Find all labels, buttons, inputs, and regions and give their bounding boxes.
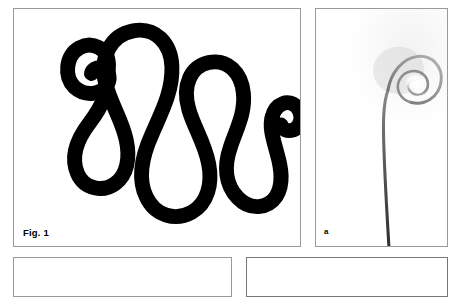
left-spiral-curl-path: [68, 45, 110, 93]
figure-panel-bottom-right-clipped: [246, 257, 448, 297]
spiral-interior-highlight: [405, 72, 427, 92]
panel-label-a: a: [324, 228, 329, 236]
panel-label-fig1: Fig. 1: [23, 228, 49, 238]
right-spiral-curl-path: [272, 103, 300, 131]
serpentine-curve-path: [104, 30, 281, 216]
serpentine-curve-drawing: [14, 9, 300, 246]
figure-panel-a: a: [315, 8, 448, 247]
curling-filament-photograph: [316, 9, 447, 246]
figure-panel-bottom-left-clipped: [13, 257, 232, 297]
filament-stem-path: [383, 90, 388, 246]
figure-panel-fig1: Fig. 1: [13, 8, 301, 247]
